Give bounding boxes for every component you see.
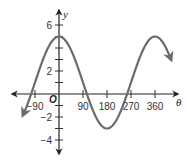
x-tick-label-180: 180 xyxy=(99,101,116,112)
origin-label: O xyxy=(49,94,57,105)
x-tick-label-90: 90 xyxy=(77,101,89,112)
y-tick-label-neg4: −4 xyxy=(41,135,53,146)
y-axis-label: y xyxy=(62,8,68,20)
x-axis-label: θ xyxy=(176,96,182,108)
y-tick-label-6: 6 xyxy=(46,20,52,31)
y-tick-label-neg2: −2 xyxy=(41,112,53,123)
y-tick-label-2: 2 xyxy=(46,66,52,77)
cosine-graph: 6 2 −2 −4 −90 90 180 270 360 y θ O xyxy=(0,0,187,162)
x-tick-label-360: 360 xyxy=(147,101,164,112)
